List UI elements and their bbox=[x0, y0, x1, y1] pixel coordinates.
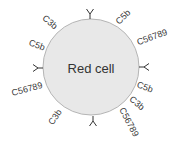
complement-label: C5b bbox=[28, 37, 47, 52]
antibody-y-icon bbox=[87, 9, 94, 19]
complement-label: C5b bbox=[136, 79, 155, 94]
antibody-y-icon bbox=[139, 64, 149, 71]
complement-label: C5b bbox=[114, 8, 133, 27]
complement-label: C3b bbox=[40, 13, 59, 31]
complement-label: C3b bbox=[127, 94, 146, 112]
complement-label: C3b bbox=[46, 107, 64, 126]
antibody-y-icon bbox=[33, 65, 43, 72]
complement-label: C56789 bbox=[10, 80, 43, 98]
antibody-y-icon bbox=[90, 116, 97, 126]
complement-label: C56789 bbox=[117, 106, 141, 139]
complement-label: C56789 bbox=[135, 27, 168, 47]
red-cell-label: Red cell bbox=[68, 61, 115, 76]
red-cell-diagram: Red cell C3bC5bC56789C3bC5bC56789C5bC3bC… bbox=[0, 0, 177, 147]
